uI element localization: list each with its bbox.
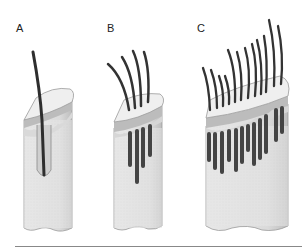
skin-section-b [108,51,164,230]
hair-follicle-diagram [0,0,302,249]
skin-section-a [24,52,74,231]
figure-baseline [15,246,302,247]
skin-section-c [203,20,289,231]
